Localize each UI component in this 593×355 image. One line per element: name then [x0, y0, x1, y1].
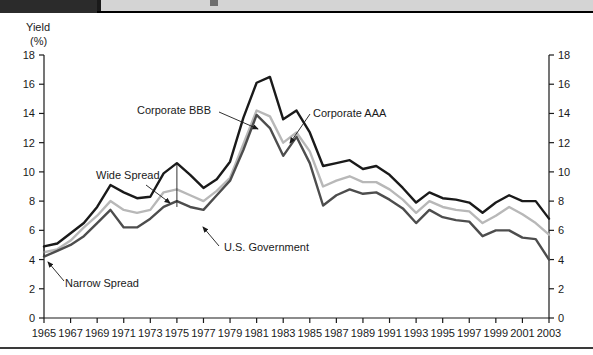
annotation-label-narrow-spread: Narrow Spread — [65, 277, 139, 289]
annotation-label-corporate-bbb: Corporate BBB — [137, 104, 211, 116]
y-tick-label-right: 12 — [558, 137, 570, 149]
annotation-label-corporate-aaa: Corporate AAA — [313, 107, 387, 119]
x-tick-label: 1991 — [377, 327, 401, 339]
annotation-arrow-us-government — [203, 227, 219, 246]
y-axis-ticks-left: 024681012141618 — [23, 49, 44, 324]
annotation-label-wide-spread: Wide Spread — [96, 169, 160, 181]
y-tick-label-right: 14 — [558, 107, 570, 119]
titlebar-divider — [97, 0, 101, 11]
x-tick-label: 1993 — [404, 327, 428, 339]
y-tick-label-left: 14 — [23, 107, 35, 119]
y-tick-label-left: 18 — [23, 49, 35, 61]
x-tick-label: 1971 — [111, 327, 135, 339]
x-tick-label: 1999 — [484, 327, 508, 339]
y-tick-label-right: 16 — [558, 78, 570, 90]
y-tick-label-left: 4 — [29, 254, 35, 266]
x-tick-label: 2003 — [537, 327, 561, 339]
x-tick-label: 1969 — [85, 327, 109, 339]
annotation-arrow-narrow-spread — [48, 262, 64, 281]
y-axis-label-line1: Yield — [26, 21, 50, 33]
y-tick-label-right: 0 — [558, 312, 564, 324]
titlebar-notch — [210, 0, 218, 6]
x-tick-label: 1989 — [351, 327, 375, 339]
annotation-label-us-government: U.S. Government — [224, 241, 309, 253]
x-tick-label: 1985 — [298, 327, 322, 339]
y-tick-label-right: 2 — [558, 283, 564, 295]
x-tick-label: 1981 — [244, 327, 268, 339]
y-axis-ticks-right: 024681012141618 — [549, 49, 570, 324]
y-tick-label-left: 10 — [23, 166, 35, 178]
x-tick-label: 1965 — [32, 327, 56, 339]
x-axis-ticks: 1965196719691971197319751977197919811983… — [32, 318, 561, 339]
y-tick-label-left: 8 — [29, 195, 35, 207]
y-tick-label-left: 0 — [29, 312, 35, 324]
x-tick-label: 1973 — [138, 327, 162, 339]
footer-divider — [0, 347, 593, 349]
y-tick-label-right: 8 — [558, 195, 564, 207]
y-tick-label-left: 16 — [23, 78, 35, 90]
x-tick-label: 1997 — [457, 327, 481, 339]
titlebar-dark-block — [0, 0, 97, 13]
yield-chart: Yield (%) 024681012141618 02468101214161… — [0, 13, 593, 347]
y-tick-label-left: 12 — [23, 137, 35, 149]
y-tick-label-right: 18 — [558, 49, 570, 61]
y-tick-label-right: 4 — [558, 254, 564, 266]
x-tick-label: 1975 — [165, 327, 189, 339]
series-line-u-s-government — [44, 115, 549, 260]
y-tick-label-left: 6 — [29, 224, 35, 236]
x-tick-label: 2001 — [510, 327, 534, 339]
y-tick-label-right: 10 — [558, 166, 570, 178]
x-tick-label: 1977 — [191, 327, 215, 339]
series-line-corporate-aaa — [44, 111, 549, 253]
x-tick-label: 1987 — [324, 327, 348, 339]
y-tick-label-left: 2 — [29, 283, 35, 295]
x-tick-label: 1967 — [58, 327, 82, 339]
x-tick-label: 1995 — [430, 327, 454, 339]
y-tick-label-right: 6 — [558, 224, 564, 236]
x-tick-label: 1979 — [218, 327, 242, 339]
x-tick-label: 1983 — [271, 327, 295, 339]
chart-svg: Yield (%) 024681012141618 02468101214161… — [0, 13, 593, 347]
window-titlebar — [0, 0, 593, 13]
y-axis-label-line2: (%) — [30, 35, 47, 47]
